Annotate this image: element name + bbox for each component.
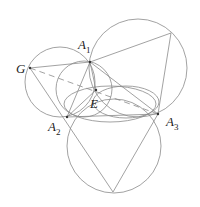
point-a1 (89, 61, 91, 63)
label-g: G (16, 62, 25, 75)
label-a3: A3 (166, 115, 178, 132)
label-a1: A1 (78, 38, 90, 55)
segment-a1-a3 (90, 62, 158, 114)
label-e: E (90, 97, 98, 110)
diagram-canvas (0, 0, 200, 207)
circle-left (25, 47, 95, 117)
circle-right (89, 19, 187, 117)
segment-g-a1 (30, 62, 90, 68)
segment-a1-top (90, 33, 171, 62)
label-a2: A2 (48, 120, 60, 137)
point-a3 (157, 113, 159, 115)
segment-a3-bottom (113, 114, 158, 192)
point-g (29, 67, 31, 69)
point-e (95, 89, 97, 91)
segment-top-a3 (158, 33, 171, 114)
circle-bottom (67, 99, 161, 193)
geometry-diagram: G A1 E A2 A3 (0, 0, 200, 207)
point-a2 (66, 116, 68, 118)
segment-a1-a2 (67, 62, 90, 117)
